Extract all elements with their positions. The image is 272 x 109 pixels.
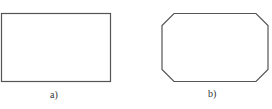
figure-a-label: a) <box>50 89 58 100</box>
diagram-canvas <box>0 0 272 109</box>
rectangle-shape <box>2 14 111 82</box>
chamfered-rectangle-shape <box>162 14 268 82</box>
figure-b-label: b) <box>208 88 216 99</box>
